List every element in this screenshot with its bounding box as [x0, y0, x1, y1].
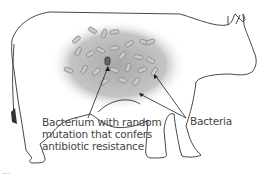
cow-tail-tuft	[11, 108, 17, 124]
label-line: mutation that confers	[42, 128, 162, 140]
bacteria-label: Bacteria	[190, 115, 232, 127]
label-line: Bacterium with random	[42, 116, 162, 128]
mutant-bacterium	[105, 57, 110, 65]
cow-tail	[13, 44, 14, 120]
caption-fragment: ...	[2, 166, 11, 174]
label-line: antibiotic resistance	[42, 140, 162, 152]
figure-cow-antibiotic-resistance: Bacterium with random mutation that conf…	[0, 0, 270, 174]
mutant-bacterium-label: Bacterium with random mutation that conf…	[42, 116, 162, 152]
